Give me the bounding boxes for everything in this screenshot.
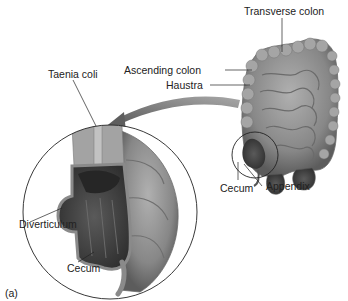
label-haustra: Haustra (166, 79, 203, 91)
label-transverse-colon: Transverse colon (244, 5, 324, 17)
label-cecum-inset: Cecum (67, 262, 100, 274)
large-intestine-illustration (241, 38, 340, 194)
label-appendix: Appendix (266, 180, 310, 192)
label-taenia-coli: Taenia coli (48, 68, 98, 80)
label-ascending-colon: Ascending colon (124, 64, 201, 76)
panel-label: (a) (5, 287, 18, 299)
label-cecum: Cecum (220, 182, 253, 194)
inset-illustration (20, 120, 200, 300)
diagram-illustration (0, 0, 348, 301)
colon-diagram: Transverse colon Ascending colon Haustra… (0, 0, 348, 301)
taenia-band (94, 120, 102, 166)
label-diverticulum: Diverticulum (19, 218, 77, 230)
